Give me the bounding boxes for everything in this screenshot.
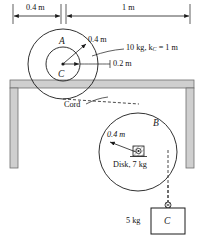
- center-c-label: C: [58, 69, 64, 79]
- disk-b-label: B: [153, 118, 159, 128]
- mass-property-tail: = 1 m: [157, 43, 178, 52]
- dimension-label-right: 1 m: [122, 4, 135, 12]
- wheel-a-mass-property: 10 kg, kC = 1 m: [126, 44, 178, 52]
- inner-radius-label: 0.2 m: [113, 60, 132, 68]
- mechanics-diagram: 0.4 m 1 m A C 0.4 m 0.2 m 10 kg, kC = 1 …: [0, 0, 204, 237]
- outer-radius-label: 0.4 m: [88, 36, 107, 44]
- cord-label: Cord: [64, 101, 80, 109]
- block-c-label: C: [164, 216, 170, 226]
- disk-radius-label: 0.4 m: [107, 131, 125, 139]
- disk-b: [99, 113, 177, 191]
- wheel-a: [28, 29, 124, 99]
- support-structure: [10, 80, 194, 168]
- disk-mass-label: Disk, 7 kg: [113, 161, 147, 169]
- disk-radius-arrow: [110, 142, 136, 152]
- dimension-label-left: 0.4 m: [26, 4, 45, 12]
- wheel-a-label: A: [59, 36, 65, 46]
- outer-radius-arrow: [64, 44, 86, 63]
- block-mass-label: 5 kg: [126, 217, 140, 225]
- mass-property-main: 10 kg, k: [126, 43, 153, 52]
